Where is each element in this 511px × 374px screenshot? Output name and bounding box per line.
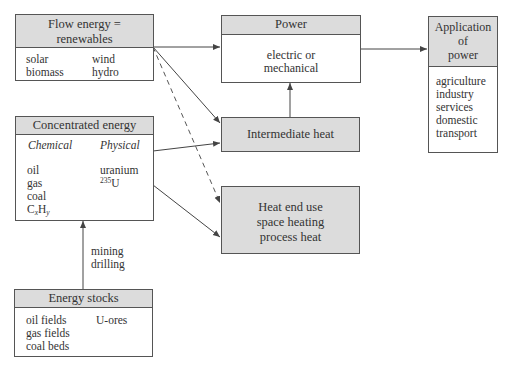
extraction-label-mining: mining [91, 245, 125, 258]
energy-stocks-body: oil fields gas fields coal beds U-ores [15, 308, 152, 356]
extraction-label-drilling: drilling [91, 258, 125, 271]
chemical-item-oil: oil [27, 164, 50, 177]
concentrated-energy-header: Concentrated energy [16, 117, 153, 135]
application-item-domestic: domestic [436, 114, 497, 127]
arrow-flow-to-intermediate-heat [153, 47, 220, 123]
flow-item-hydro: hydro [92, 66, 119, 79]
flow-item-wind: wind [92, 53, 119, 66]
physical-item-u235: 235U [100, 177, 138, 190]
physical-heading: Physical [100, 139, 140, 152]
application-item-services: services [436, 101, 497, 114]
intermediate-heat-title: Intermediate heat [247, 127, 334, 141]
heat-end-use-space-heating: space heating [222, 215, 359, 230]
application-item-agriculture: agriculture [436, 75, 497, 88]
power-body-line2: mechanical [222, 62, 360, 75]
heat-end-use-box: Heat end use space heating process heat [221, 186, 360, 254]
application-header: Application of power [429, 17, 497, 67]
arrow-concentrated-to-heat-end-use [153, 185, 220, 237]
energy-stocks-header: Energy stocks [15, 290, 152, 308]
flow-item-biomass: biomass [26, 66, 64, 79]
energy-stocks-box: Energy stocks oil fields gas fields coal… [14, 289, 153, 357]
chemical-item-gas: gas [27, 177, 50, 190]
arrow-concentrated-to-intermediate-heat [153, 143, 220, 151]
chemical-item-coal: coal [27, 190, 50, 203]
application-title-line2: of [429, 34, 497, 48]
stock-item-u-ores: U-ores [96, 314, 127, 327]
flow-energy-body: solar biomass wind hydro [16, 48, 153, 80]
power-box: Power electric or mechanical [221, 15, 361, 83]
power-title: Power [275, 17, 307, 31]
arrow-flow-to-heat-end-use-dashed [153, 47, 220, 203]
flow-energy-box: Flow energy = renewables solar biomass w… [15, 14, 154, 81]
flow-energy-title-line1: Flow energy = [16, 17, 153, 32]
stock-item-gas-fields: gas fields [26, 327, 70, 340]
stock-item-coal-beds: coal beds [26, 340, 70, 353]
application-title-line3: power [429, 48, 497, 62]
heat-end-use-title: Heat end use [222, 200, 359, 215]
application-item-transport: transport [436, 127, 497, 140]
flow-energy-header: Flow energy = renewables [16, 15, 153, 48]
extraction-label: mining drilling [91, 245, 125, 271]
heat-end-use-process-heat: process heat [222, 230, 359, 245]
stock-item-oil-fields: oil fields [26, 314, 70, 327]
application-item-industry: industry [436, 88, 497, 101]
power-header: Power [222, 16, 360, 35]
energy-stocks-title: Energy stocks [48, 291, 118, 305]
concentrated-energy-title: Concentrated energy [33, 118, 137, 132]
flow-item-solar: solar [26, 53, 64, 66]
concentrated-energy-box: Concentrated energy Chemical Physical oi… [15, 116, 154, 221]
power-body: electric or mechanical [222, 35, 360, 75]
intermediate-heat-box: Intermediate heat [221, 117, 360, 152]
chemical-formula-cxhy: CxHy [27, 203, 50, 216]
application-body: agriculture industry services domestic t… [429, 67, 497, 140]
flow-energy-title-line2: renewables [16, 32, 153, 47]
chemical-heading: Chemical [28, 139, 72, 152]
application-title-line1: Application [429, 20, 497, 34]
concentrated-energy-body: Chemical Physical oil gas coal CxHy uran… [16, 135, 153, 220]
application-box: Application of power agriculture industr… [428, 16, 498, 153]
